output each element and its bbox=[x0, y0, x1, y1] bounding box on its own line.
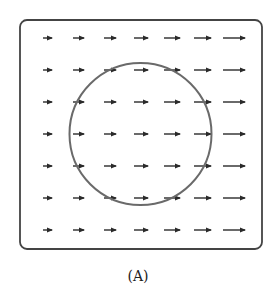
vector-field-figure: (A) bbox=[0, 0, 276, 297]
arrow-field bbox=[43, 38, 245, 230]
figure-caption: (A) bbox=[0, 268, 276, 284]
vector-field-diagram bbox=[0, 0, 276, 297]
